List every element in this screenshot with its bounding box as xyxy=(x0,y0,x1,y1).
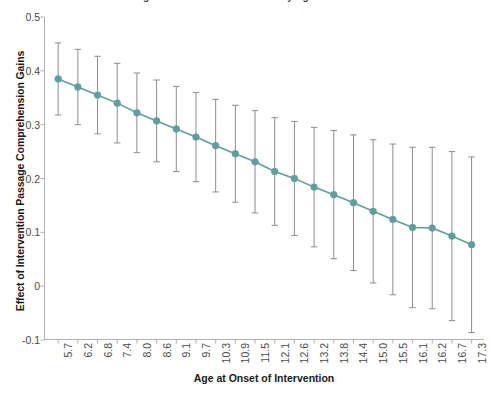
x-tick-label: 15.5 xyxy=(397,343,409,363)
y-tick-marks xyxy=(41,17,45,340)
x-axis-tick-labels: 5.76.26.87.48.08.69.19.710.310.911.512.1… xyxy=(44,343,484,373)
x-tick-label: 17.3 xyxy=(476,343,488,363)
data-point xyxy=(468,241,475,248)
error-bars xyxy=(55,43,475,333)
x-tick-label: 16.2 xyxy=(436,343,448,363)
data-point xyxy=(330,191,337,198)
data-point xyxy=(252,158,259,165)
data-point-markers xyxy=(55,76,475,249)
x-tick-label: 7.4 xyxy=(121,343,133,358)
x-tick-label: 9.1 xyxy=(180,343,192,358)
data-point xyxy=(94,92,101,99)
x-tick-label: 16.1 xyxy=(417,343,429,363)
data-point xyxy=(232,150,239,157)
data-point xyxy=(409,224,416,231)
data-point xyxy=(114,100,121,107)
y-tick-label: 0.3 xyxy=(6,119,40,131)
data-point xyxy=(370,208,377,215)
y-tick-label: -0.1 xyxy=(6,334,40,346)
data-point xyxy=(271,168,278,175)
axis-lines xyxy=(45,17,485,340)
y-tick-label: 0.4 xyxy=(6,65,40,77)
figure-container: Figure 3. Effect of Intervention by Age … xyxy=(0,0,491,396)
data-point xyxy=(350,199,357,206)
x-tick-label: 6.2 xyxy=(82,343,94,358)
x-axis-title: Age at Onset of Intervention xyxy=(44,372,484,384)
y-tick-label: 0.1 xyxy=(6,226,40,238)
data-point xyxy=(55,76,62,83)
x-tick-label: 11.5 xyxy=(259,343,271,363)
figure-title: Figure 3. Effect of Intervention by Age … xyxy=(0,0,491,3)
data-point xyxy=(429,225,436,232)
x-tick-label: 12.6 xyxy=(298,343,310,363)
data-point xyxy=(193,134,200,141)
x-tick-label: 13.2 xyxy=(318,343,330,363)
x-tick-label: 9.7 xyxy=(200,343,212,358)
y-tick-label: 0.5 xyxy=(6,11,40,23)
figure-title-strip: Figure 3. Effect of Intervention by Age … xyxy=(0,0,491,5)
data-point xyxy=(173,126,180,133)
data-point xyxy=(74,84,81,91)
x-tick-label: 8.0 xyxy=(141,343,153,358)
x-tick-label: 8.6 xyxy=(161,343,173,358)
plot-area xyxy=(44,17,484,340)
chart-svg xyxy=(44,17,484,340)
data-point xyxy=(291,175,298,182)
y-tick-label: 0.2 xyxy=(6,173,40,185)
data-point xyxy=(212,142,219,149)
data-point xyxy=(449,233,456,240)
y-axis-tick-labels: 0.50.40.30.20.10-0.1 xyxy=(0,0,40,396)
x-tick-label: 15.0 xyxy=(377,343,389,363)
x-tick-label: 12.1 xyxy=(279,343,291,363)
x-tick-label: 13.8 xyxy=(338,343,350,363)
x-tick-label: 5.7 xyxy=(62,343,74,358)
data-point xyxy=(134,109,141,116)
data-point xyxy=(389,216,396,223)
x-tick-label: 6.8 xyxy=(102,343,114,358)
y-tick-label: 0 xyxy=(6,280,40,292)
x-tick-label: 14.4 xyxy=(357,343,369,363)
x-tick-label: 10.9 xyxy=(239,343,251,363)
x-tick-label: 10.3 xyxy=(220,343,232,363)
x-tick-label: 16.7 xyxy=(456,343,468,363)
data-point xyxy=(311,184,318,191)
data-point xyxy=(153,117,160,124)
